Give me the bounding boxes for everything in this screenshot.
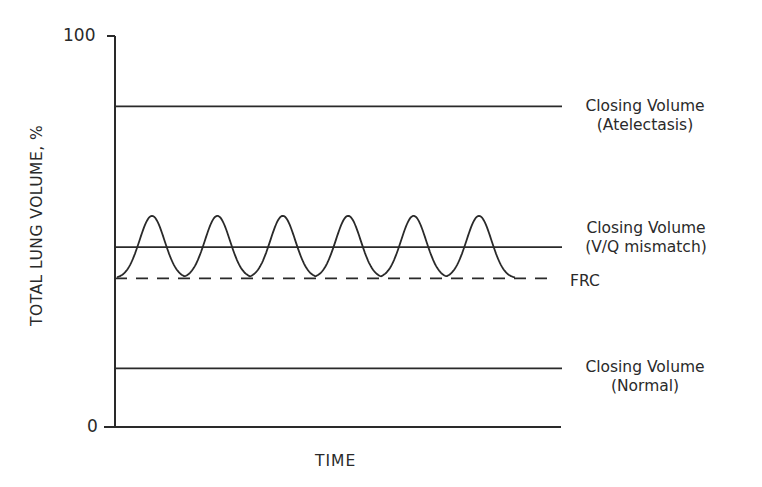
y-tick-label-100: 100 bbox=[63, 25, 95, 45]
vq-label-line2: (V/Q mismatch) bbox=[567, 238, 725, 257]
atelectasis-label: Closing Volume (Atelectasis) bbox=[570, 97, 720, 135]
frc-label: FRC bbox=[570, 272, 600, 291]
vq-mismatch-label: Closing Volume (V/Q mismatch) bbox=[567, 219, 725, 257]
y-tick-label-0: 0 bbox=[87, 416, 98, 436]
normal-label-line1: Closing Volume bbox=[570, 358, 720, 377]
atelectasis-label-line1: Closing Volume bbox=[570, 97, 720, 116]
normal-label-line2: (Normal) bbox=[570, 377, 720, 396]
vq-label-line1: Closing Volume bbox=[567, 219, 725, 238]
y-axis-label: TOTAL LUNG VOLUME, % bbox=[28, 136, 46, 326]
normal-label: Closing Volume (Normal) bbox=[570, 358, 720, 396]
atelectasis-label-line2: (Atelectasis) bbox=[570, 116, 720, 135]
x-axis-label: TIME bbox=[315, 452, 356, 470]
